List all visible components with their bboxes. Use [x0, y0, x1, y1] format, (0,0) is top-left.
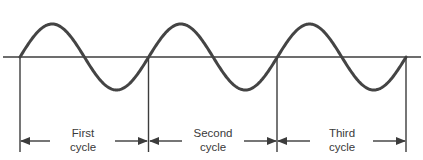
- first-cycle-label-line2: cycle: [53, 140, 113, 154]
- first-cycle-label: First cycle: [53, 126, 113, 154]
- third-cycle-label-line2: cycle: [312, 140, 372, 154]
- third-cycle-label-line1: Third: [312, 126, 372, 140]
- second-cycle-label: Second cycle: [183, 126, 243, 154]
- third-cycle-label: Third cycle: [312, 126, 372, 154]
- second-cycle-label-line2: cycle: [183, 140, 243, 154]
- second-cycle-label-line1: Second: [183, 126, 243, 140]
- first-cycle-label-line1: First: [53, 126, 113, 140]
